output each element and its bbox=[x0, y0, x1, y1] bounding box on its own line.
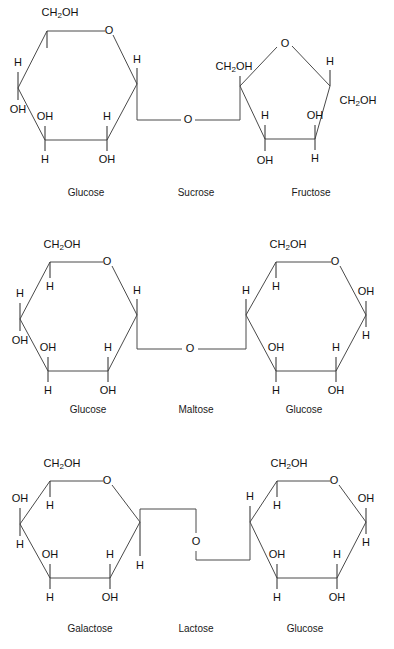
disaccharide-name: Sucrose bbox=[178, 187, 215, 198]
hydroxyl-label: OH bbox=[268, 341, 285, 353]
hydroxyl-label: OH bbox=[37, 110, 54, 122]
linkage-bond-left bbox=[137, 84, 181, 120]
ring-oxygen-label: O bbox=[103, 255, 112, 267]
glycosidic-linkage-2: O bbox=[137, 315, 246, 354]
hydrogen-label: H bbox=[362, 536, 370, 548]
hydroxyl-label: OH bbox=[102, 591, 119, 603]
hydrogen-label: H bbox=[104, 341, 112, 353]
ch2oh-group: CH2OH bbox=[216, 60, 253, 74]
ring-oxygen-label: O bbox=[281, 37, 290, 49]
glucose-pyranose-ring-2: O CH2OH H H OH OH H H OH H bbox=[12, 238, 141, 396]
hydroxyl-label: OH bbox=[12, 334, 29, 346]
linkage-oxygen-label: O bbox=[192, 535, 201, 547]
maltose-structure: O CH2OH H H OH OH H H OH H O bbox=[12, 238, 375, 415]
hydroxyl-label: OH bbox=[358, 492, 375, 504]
hydroxyl-label: OH bbox=[100, 384, 117, 396]
glucose-pyranose-ring-4: O CH2OH H H OH H H OH OH H bbox=[246, 457, 374, 603]
ch2oh-group: CH2OH bbox=[44, 238, 81, 252]
hydrogen-label: H bbox=[333, 548, 341, 560]
linkage-bond-right bbox=[198, 315, 246, 349]
hydrogen-label: H bbox=[44, 384, 52, 396]
hydrogen-label: H bbox=[272, 280, 280, 292]
linkage-bond-left bbox=[140, 509, 196, 533]
ch2oh-group: CH2OH bbox=[271, 457, 308, 471]
linkage-bond-left bbox=[137, 315, 182, 349]
ch2oh-group: CH2OH bbox=[340, 94, 377, 108]
hydrogen-label: H bbox=[133, 53, 141, 65]
hydrogen-label: H bbox=[46, 499, 54, 511]
glucose-pyranose-ring-1: O CH2OH H OH OH H H OH H bbox=[10, 6, 141, 165]
ring-oxygen-label: O bbox=[331, 255, 340, 267]
hydrogen-label: H bbox=[326, 55, 334, 67]
hydrogen-label: H bbox=[332, 341, 340, 353]
hydroxyl-label: OH bbox=[42, 548, 59, 560]
hydrogen-label: H bbox=[261, 109, 269, 121]
left-sugar-name: Glucose bbox=[70, 404, 107, 415]
hydrogen-label: H bbox=[362, 329, 370, 341]
glycosidic-linkage-1: O bbox=[137, 84, 240, 125]
hydrogen-label: H bbox=[16, 287, 24, 299]
hydroxyl-label: OH bbox=[329, 591, 346, 603]
hydrogen-label: H bbox=[272, 384, 280, 396]
hydroxyl-label: OH bbox=[40, 341, 57, 353]
hydroxyl-label: OH bbox=[99, 153, 116, 165]
hydrogen-label: H bbox=[242, 284, 250, 296]
ring-bond-c1-c2 bbox=[337, 522, 366, 578]
galactose-pyranose-ring: O CH2OH H OH H OH H H OH H bbox=[12, 457, 144, 603]
disaccharide-diagram: O CH2OH H OH OH H H OH H bbox=[0, 0, 394, 649]
hydrogen-label: H bbox=[14, 56, 22, 68]
hydrogen-label: H bbox=[246, 490, 254, 502]
disaccharide-name: Maltose bbox=[178, 404, 213, 415]
ring-bond-c1-c2 bbox=[107, 84, 137, 140]
hydroxyl-label: OH bbox=[269, 548, 286, 560]
hydroxyl-label: OH bbox=[307, 109, 324, 121]
hydroxyl-label: OH bbox=[257, 154, 274, 166]
ring-bond-c4-c5 bbox=[18, 31, 47, 88]
structures-canvas: O CH2OH H OH OH H H OH H bbox=[0, 0, 394, 649]
hydrogen-label: H bbox=[273, 591, 281, 603]
hydroxyl-label: OH bbox=[10, 103, 27, 115]
ch2oh-group: CH2OH bbox=[44, 457, 81, 471]
hydrogen-label: H bbox=[16, 538, 24, 550]
left-sugar-name: Galactose bbox=[67, 623, 112, 634]
right-sugar-name: Glucose bbox=[286, 404, 323, 415]
hydrogen-label: H bbox=[46, 591, 54, 603]
ring-bond-c1-c2 bbox=[336, 315, 366, 371]
hydrogen-label: H bbox=[106, 548, 114, 560]
left-sugar-name: Glucose bbox=[68, 187, 105, 198]
ring-oxygen-label: O bbox=[103, 474, 112, 486]
hydroxyl-label: OH bbox=[358, 285, 375, 297]
hydrogen-label: H bbox=[103, 110, 111, 122]
glucose-pyranose-ring-3: O CH2OH H H OH H H OH OH H bbox=[242, 238, 374, 396]
ring-bond-o-c5 bbox=[292, 46, 330, 86]
linkage-oxygen-label: O bbox=[184, 113, 193, 125]
hydroxyl-label: OH bbox=[12, 492, 29, 504]
hydrogen-label: H bbox=[311, 152, 319, 164]
linkage-bond-right bbox=[196, 522, 250, 560]
hydrogen-label: H bbox=[133, 284, 141, 296]
lactose-structure: O CH2OH H OH H OH H H OH H bbox=[12, 457, 375, 634]
linkage-oxygen-label: O bbox=[186, 342, 195, 354]
ring-oxygen-label: O bbox=[105, 24, 114, 36]
linkage-bond-right bbox=[195, 86, 240, 120]
sucrose-structure: O CH2OH H OH OH H H OH H bbox=[10, 6, 377, 198]
ch2oh-group: CH2OH bbox=[42, 6, 79, 20]
hydroxyl-label: OH bbox=[328, 384, 345, 396]
hydrogen-label: H bbox=[273, 499, 281, 511]
hydrogen-label: H bbox=[46, 280, 54, 292]
right-sugar-name: Glucose bbox=[287, 623, 324, 634]
disaccharide-name: Lactose bbox=[178, 623, 213, 634]
ring-bond-c1-c2 bbox=[108, 315, 137, 371]
ring-bond-o-c1 bbox=[112, 485, 140, 522]
hydrogen-label: H bbox=[136, 559, 144, 571]
ring-oxygen-label: O bbox=[330, 474, 339, 486]
right-sugar-name: Fructose bbox=[292, 187, 331, 198]
hydrogen-label: H bbox=[41, 153, 49, 165]
ch2oh-group: CH2OH bbox=[270, 238, 307, 252]
glycosidic-linkage-3: O bbox=[140, 509, 250, 560]
